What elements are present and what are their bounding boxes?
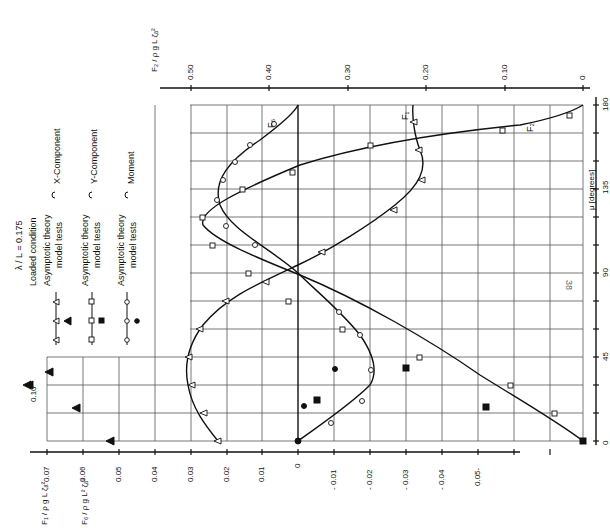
legend-x-tests: model tests [54,222,64,268]
legend-moment: Moment [126,151,136,184]
f2-test-markers [314,365,586,444]
f6-label: F₆ [266,119,276,128]
legend-m-theory: Asymptotic theory [116,214,126,286]
tick-label: 0.05- [473,468,482,486]
condition-ratio: λ / L = 0.175 [14,221,24,270]
tick-label: 135 [601,181,610,194]
right-axis-title-f2: F₂ / ρ g L ζₐ² [150,28,159,72]
tick-label: 90 [601,268,610,277]
tick-label: 0.50 [186,64,195,80]
legend-symbols [52,192,139,345]
tick-label: 0.02 [222,466,231,482]
left-axis-title-f6: F₆ / ρ g L² ζₐ² [80,478,89,525]
f1-test-markers [23,368,114,445]
legend-y-theory: Asymptotic theory [80,214,90,286]
f2-label: F₂ [525,123,535,132]
tick-label: 0 [293,464,302,468]
tick-label: 0.30 [343,64,352,80]
offscale-label: 0.10 [29,386,38,402]
tick-label: 0.01 [257,466,266,482]
page-number: 38 [564,280,574,290]
legend-m-tests: model tests [128,222,138,268]
tick-label: 0.10 [500,64,509,80]
f1-theory-markers [185,119,425,444]
tick-label: 0 [578,76,587,80]
legend-y-tests: model tests [92,222,102,268]
f6-test-markers [295,367,338,445]
tick-label: 0.40 [264,64,273,80]
f1-label: F₁ [400,111,410,120]
tick-label: 0.04 [150,466,159,482]
mu-axis [593,97,599,445]
f2-theory-markers [200,113,572,416]
tick-label: 45 [601,352,610,361]
tick-label: 0.03 [186,466,195,482]
legend-y-component: Y-Component [89,129,99,184]
tick-label: 0.07 [42,466,51,482]
left-axis-title-f1: F₁ / ρ g L ζₐ² [40,482,49,525]
right-axis [160,85,590,91]
tick-label: - 0.04 [437,470,446,490]
tick-label: - 0.01 [329,470,338,490]
legend-x-component: X-Component [52,128,62,184]
tick-label: 180 [601,98,610,111]
legend-x-theory: Asymptotic theory [42,214,52,286]
condition-label: Loaded condition [28,217,38,286]
tick-label: 0 [601,441,610,445]
tick-label: 0.05 [114,466,123,482]
tick-label: - 0.02 [365,470,374,490]
x-axis-title: μ [degrees] [587,170,596,210]
tick-label: 0.20 [421,64,430,80]
left-axis [30,449,550,455]
tick-label: - 0.03 [401,470,410,490]
